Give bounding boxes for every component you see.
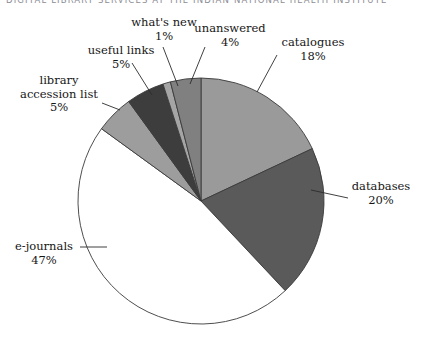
label-unanswered-pct: 4% — [182, 36, 278, 50]
label-ejournals-pct: 47% — [6, 254, 82, 268]
label-useful-links-name: useful links — [88, 43, 155, 57]
label-databases: databases 20% — [340, 180, 422, 207]
label-library-accession-pct: 5% — [14, 101, 104, 115]
leader-library-accession-list — [102, 103, 120, 110]
label-unanswered: unanswered 4% — [182, 22, 278, 49]
label-catalogues-pct: 18% — [265, 50, 361, 64]
label-catalogues: catalogues 18% — [265, 36, 361, 63]
chart-canvas: DIGITAL LIBRARY SERVICES AT THE INDIAN N… — [0, 0, 422, 345]
label-unanswered-name: unanswered — [194, 21, 265, 35]
label-catalogues-name: catalogues — [282, 35, 345, 49]
label-library-accession-list: library accession list 5% — [14, 74, 104, 115]
pie-slices-final — [78, 78, 324, 324]
label-databases-pct: 20% — [340, 194, 422, 208]
label-library-accession-line2: accession list — [14, 88, 104, 102]
label-databases-name: databases — [352, 179, 411, 193]
label-ejournals: e-journals 47% — [6, 240, 82, 267]
label-library-accession-line1: library — [39, 73, 78, 87]
label-ejournals-name: e-journals — [15, 239, 73, 253]
label-useful-links-pct: 5% — [76, 58, 166, 72]
label-useful-links: useful links 5% — [76, 44, 166, 71]
